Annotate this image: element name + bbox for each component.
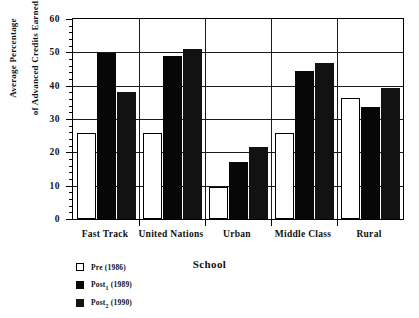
gridline-y-50	[73, 52, 403, 53]
y-minor-tick	[69, 159, 73, 160]
bar-fast-track-post2-1990	[117, 92, 136, 219]
bar-united-nations-post2-1990	[183, 49, 202, 219]
plot-inner	[73, 19, 403, 219]
y-tick-label-40: 40	[36, 81, 60, 91]
y-minor-tick	[69, 126, 73, 127]
legend-label-2: Post2 (1990)	[91, 298, 132, 309]
y-minor-tick	[69, 172, 73, 173]
y-minor-tick	[69, 46, 73, 47]
bar-middle-class-post2-1990	[315, 63, 334, 219]
legend-item-0: Pre (1986)	[76, 258, 206, 276]
y-minor-tick	[69, 166, 73, 167]
group-divider-3	[271, 19, 272, 219]
y-minor-tick	[69, 179, 73, 180]
y-minor-tick	[69, 72, 73, 73]
y-tick-30	[66, 119, 73, 120]
y-minor-tick	[69, 212, 73, 213]
bar-fast-track-pre-1986	[77, 133, 96, 219]
y-minor-tick	[69, 32, 73, 33]
chart-legend: Pre (1986)Post1 (1989)Post2 (1990)	[76, 258, 206, 312]
legend-swatch-solid1	[76, 281, 84, 289]
y-minor-tick	[69, 66, 73, 67]
y-axis-title-line-1: Average Percentage	[8, 18, 18, 97]
y-minor-tick	[69, 206, 73, 207]
group-divider-4	[337, 19, 338, 219]
y-tick-50	[66, 52, 73, 53]
legend-item-1: Post1 (1989)	[76, 276, 206, 294]
bar-united-nations-pre-1986	[143, 133, 162, 219]
x-tick-4	[337, 219, 338, 226]
y-minor-tick	[69, 146, 73, 147]
x-axis-title: School	[0, 258, 419, 270]
y-tick-label-10: 10	[36, 181, 60, 191]
bar-rural-pre-1986	[341, 98, 360, 219]
x-tick-3	[271, 219, 272, 226]
y-minor-tick	[69, 139, 73, 140]
x-category-label-urban: Urban	[223, 229, 251, 239]
y-tick-0	[66, 219, 73, 220]
plot-area: 0102030405060	[72, 18, 404, 220]
y-minor-tick	[69, 59, 73, 60]
y-tick-label-50: 50	[36, 47, 60, 57]
group-divider-2	[205, 19, 206, 219]
y-tick-10	[66, 186, 73, 187]
x-category-label-rural: Rural	[356, 229, 381, 239]
y-minor-tick	[69, 112, 73, 113]
y-minor-tick	[69, 132, 73, 133]
y-minor-tick	[69, 199, 73, 200]
bar-urban-pre-1986	[209, 187, 228, 219]
y-tick-label-0: 0	[36, 214, 60, 224]
y-minor-tick	[69, 99, 73, 100]
x-category-label-middle-class: Middle Class	[275, 229, 332, 239]
y-tick-label-30: 30	[36, 114, 60, 124]
y-minor-tick	[69, 79, 73, 80]
x-category-label-fast-track: Fast Track	[82, 229, 129, 239]
y-axis-title: Average Percentage of Advanced Credits E…	[0, 0, 41, 153]
bar-chart-figure: Average Percentage of Advanced Credits E…	[0, 0, 419, 318]
bar-rural-post2-1990	[381, 88, 400, 219]
y-minor-tick	[69, 106, 73, 107]
y-minor-tick	[69, 39, 73, 40]
y-tick-label-20: 20	[36, 147, 60, 157]
legend-item-2: Post2 (1990)	[76, 294, 206, 312]
y-tick-20	[66, 152, 73, 153]
y-minor-tick	[69, 92, 73, 93]
legend-swatch-solid2	[76, 299, 84, 307]
legend-label-1: Post1 (1989)	[91, 280, 132, 291]
bar-urban-post2-1990	[249, 147, 268, 219]
group-divider-1	[139, 19, 140, 219]
x-tick-2	[205, 219, 206, 226]
bar-middle-class-post1-1989	[295, 71, 314, 219]
bar-middle-class-pre-1986	[275, 133, 294, 219]
bar-rural-post1-1989	[361, 107, 380, 219]
y-minor-tick	[69, 26, 73, 27]
y-tick-label-60: 60	[36, 14, 60, 24]
y-minor-tick	[69, 192, 73, 193]
x-tick-1	[139, 219, 140, 226]
legend-swatch-open	[76, 263, 84, 271]
bar-fast-track-post1-1989	[97, 53, 116, 219]
legend-label-0: Pre (1986)	[91, 263, 126, 272]
y-tick-60	[66, 19, 73, 20]
bar-united-nations-post1-1989	[163, 56, 182, 219]
x-category-label-united-nations: United Nations	[138, 229, 203, 239]
y-tick-40	[66, 86, 73, 87]
gridline-y-40	[73, 86, 403, 87]
bar-urban-post1-1989	[229, 162, 248, 219]
